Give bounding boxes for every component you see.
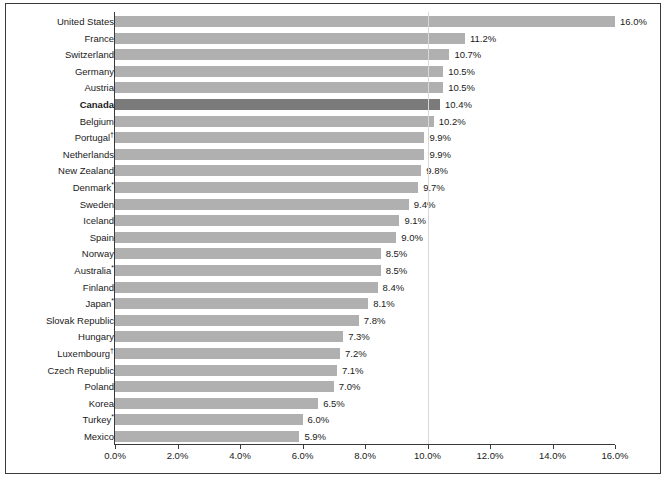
- x-axis-tick-label: 16.0%: [602, 450, 629, 461]
- bar-value-label: 9.8%: [426, 162, 448, 179]
- bar-row[interactable]: Korea6.5%: [6, 395, 662, 412]
- bar-value-label: 8.1%: [373, 295, 395, 312]
- x-axis-tick-label: 14.0%: [539, 450, 566, 461]
- bar[interactable]: [115, 315, 359, 326]
- bar[interactable]: [115, 348, 340, 359]
- bar-value-label: 6.0%: [308, 411, 330, 428]
- bar-row[interactable]: Australia*8.5%: [6, 262, 662, 279]
- x-axis-tick-mark: [240, 445, 241, 449]
- x-axis-tick-label: 10.0%: [414, 450, 441, 461]
- bar[interactable]: [115, 116, 434, 127]
- bar-value-label: 9.7%: [423, 179, 445, 196]
- x-axis-tick-label: 4.0%: [229, 450, 251, 461]
- category-label: Mexico: [84, 428, 114, 445]
- bar-value-label: 10.7%: [454, 46, 481, 63]
- bar-row[interactable]: Hungary7.3%: [6, 328, 662, 345]
- category-label: Germany: [75, 63, 114, 80]
- bar-row[interactable]: Portugal†9.9%: [6, 129, 662, 146]
- bar[interactable]: [115, 298, 368, 309]
- category-label: Belgium: [80, 113, 114, 130]
- bar-row[interactable]: Spain9.0%: [6, 229, 662, 246]
- x-axis-tick-label: 2.0%: [167, 450, 189, 461]
- bar[interactable]: [115, 33, 465, 44]
- x-axis-tick-mark: [365, 445, 366, 449]
- category-label: Australia*: [74, 262, 114, 279]
- bar-value-label: 10.5%: [448, 63, 475, 80]
- bar[interactable]: [115, 331, 343, 342]
- category-label: Switzerland: [65, 46, 114, 63]
- category-label: Slovak Republic: [46, 312, 114, 329]
- bar[interactable]: [115, 165, 421, 176]
- category-label: Japan*: [85, 295, 114, 312]
- bar[interactable]: [115, 215, 399, 226]
- x-axis-tick-mark: [553, 445, 554, 449]
- bar-row[interactable]: Switzerland10.7%: [6, 46, 662, 63]
- bar[interactable]: [115, 398, 318, 409]
- bar-row[interactable]: Canada10.4%: [6, 96, 662, 113]
- bar-row[interactable]: Netherlands9.9%: [6, 146, 662, 163]
- bar-row[interactable]: New Zealand9.8%: [6, 162, 662, 179]
- bar-value-label: 11.2%: [470, 30, 496, 47]
- bar[interactable]: [115, 232, 396, 243]
- category-label: Norway: [82, 245, 114, 262]
- bar[interactable]: [115, 82, 443, 93]
- bar-row[interactable]: Slovak Republic7.8%: [6, 312, 662, 329]
- bar-row[interactable]: Poland7.0%: [6, 378, 662, 395]
- bar-row[interactable]: Norway8.5%: [6, 245, 662, 262]
- bar-row[interactable]: United States16.0%: [6, 13, 662, 30]
- x-axis-tick-mark: [115, 445, 116, 449]
- bar-value-label: 9.4%: [414, 196, 436, 213]
- bar-value-label: 7.8%: [364, 312, 386, 329]
- bar[interactable]: [115, 132, 424, 143]
- bar-row[interactable]: Sweden9.4%: [6, 196, 662, 213]
- bar[interactable]: [115, 66, 443, 77]
- bar[interactable]: [115, 431, 299, 442]
- bar[interactable]: [115, 414, 303, 425]
- bar-row[interactable]: Japan*8.1%: [6, 295, 662, 312]
- bar-value-label: 16.0%: [620, 13, 647, 30]
- category-label: Iceland: [83, 212, 114, 229]
- bar[interactable]: [115, 49, 449, 60]
- bar[interactable]: [115, 248, 381, 259]
- bar[interactable]: [115, 16, 615, 27]
- x-axis-tick-mark: [178, 445, 179, 449]
- category-label: Finland: [83, 279, 114, 296]
- bar[interactable]: [115, 282, 378, 293]
- bar[interactable]: [115, 365, 337, 376]
- bar-row[interactable]: Iceland9.1%: [6, 212, 662, 229]
- category-label: Czech Republic: [47, 362, 114, 379]
- chart-frame: United States16.0%France11.2%Switzerland…: [5, 3, 661, 474]
- y-axis-line: [114, 12, 115, 444]
- bar-row[interactable]: Mexico5.9%: [6, 428, 662, 445]
- bar[interactable]: [115, 99, 440, 110]
- category-label: Netherlands: [63, 146, 114, 163]
- x-axis-tick-label: 12.0%: [477, 450, 504, 461]
- bar-value-label: 5.9%: [304, 428, 326, 445]
- bar-row[interactable]: Turkey*6.0%: [6, 411, 662, 428]
- x-axis-tick-label: 6.0%: [292, 450, 314, 461]
- bar-value-label: 10.5%: [448, 79, 475, 96]
- bar-value-label: 7.1%: [342, 362, 364, 379]
- bar-value-label: 6.5%: [323, 395, 345, 412]
- category-label: Austria: [84, 79, 114, 96]
- bar-value-label: 7.2%: [345, 345, 367, 362]
- x-axis-tick-label: 0.0%: [104, 450, 126, 461]
- bar-value-label: 10.2%: [439, 113, 466, 130]
- bar[interactable]: [115, 182, 418, 193]
- bar-value-label: 7.3%: [348, 328, 370, 345]
- bar-row[interactable]: Luxembourg†7.2%: [6, 345, 662, 362]
- bar[interactable]: [115, 265, 381, 276]
- bar-row[interactable]: Czech Republic7.1%: [6, 362, 662, 379]
- bar-row[interactable]: Germany10.5%: [6, 63, 662, 80]
- bar[interactable]: [115, 381, 334, 392]
- bar-value-label: 8.5%: [386, 245, 408, 262]
- bar-row[interactable]: France11.2%: [6, 30, 662, 47]
- category-label: United States: [57, 13, 114, 30]
- bar-row[interactable]: Denmark*9.7%: [6, 179, 662, 196]
- bar[interactable]: [115, 199, 409, 210]
- bar-row[interactable]: Finland8.4%: [6, 279, 662, 296]
- bar-row[interactable]: Belgium10.2%: [6, 113, 662, 130]
- bar-row[interactable]: Austria10.5%: [6, 79, 662, 96]
- category-label: Korea: [89, 395, 114, 412]
- bar[interactable]: [115, 149, 424, 160]
